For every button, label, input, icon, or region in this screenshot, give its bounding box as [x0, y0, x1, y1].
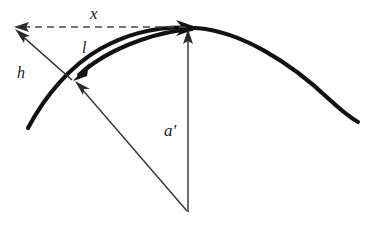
radius-line-arrowhead — [75, 81, 90, 95]
label-l: l — [82, 39, 87, 56]
label-a-prime: a' — [164, 121, 177, 140]
radius-line-to-point — [81, 88, 187, 211]
h-dimension-line — [20, 34, 72, 80]
trajectory-diagram-svg: x l h a' — [0, 0, 368, 228]
diagram-canvas: x l h a' — [0, 0, 368, 228]
label-h: h — [17, 64, 25, 81]
label-x: x — [89, 4, 98, 23]
